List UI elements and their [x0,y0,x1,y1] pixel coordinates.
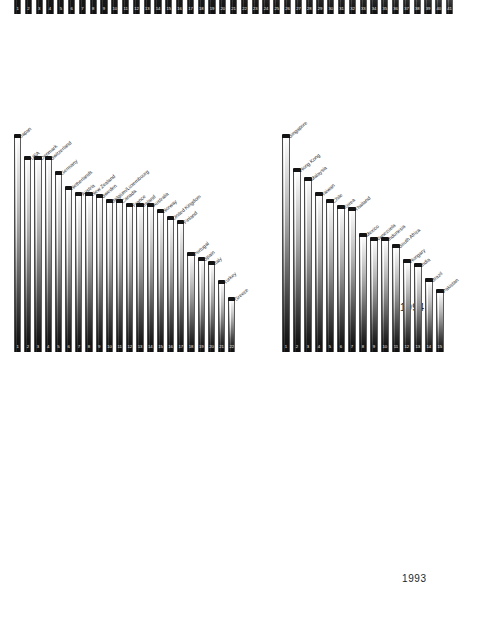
bar-rank-number: 23 [253,6,258,11]
bar: 36 [392,0,399,14]
bar-rank-number: 9 [101,6,106,11]
bar-rank-number: 16 [177,6,182,11]
bar-rank-number: 38 [415,6,420,11]
bar: 39 [424,0,431,14]
bar: 17 [187,0,194,14]
bar-rank-number: 1 [15,344,20,349]
bar-rank-number: 1 [15,6,20,11]
bar: 2 [24,159,31,353]
bar-rank-number: 4 [46,344,51,349]
bar-rank-number: 33 [361,6,366,11]
bar-rank-number: 8 [86,344,91,349]
bar-rank-number: 15 [437,344,443,349]
bar: 18 [187,255,194,352]
bar: 13 [414,266,422,352]
bar: 5 [55,174,62,352]
bar-rank-number: 10 [107,344,112,349]
bar-rank-number: 16 [168,344,173,349]
bar: 32 [349,0,356,14]
bar-rank-number: 29 [317,6,322,11]
bar: 41 [446,0,453,14]
bar: 22 [228,300,235,352]
bar-rank-number: 6 [338,344,344,349]
bar-rank-number: 27 [296,6,301,11]
bar-rank-number: 31 [339,6,344,11]
bar-rank-number: 21 [231,6,236,11]
category-label: Brazil [430,270,443,283]
bar-rank-number: 7 [76,344,81,349]
bar: 16 [176,0,183,14]
bar: 3 [36,0,43,14]
bar: 7 [79,0,86,14]
bar-rank-number: 15 [166,6,171,11]
bar: 26 [284,0,291,14]
bar-rank-number: 9 [371,344,377,349]
bar-rank-number: 11 [393,344,399,349]
bar-rank-number: 13 [137,344,142,349]
bar: 7 [75,195,82,352]
bar-rank-number: 4 [47,6,52,11]
bar-rank-number: 14 [155,6,160,11]
bar-rank-number: 1 [283,344,289,349]
bar-rank-number: 30 [328,6,333,11]
bar: 19 [208,0,215,14]
bar: 9 [100,0,107,14]
bar: 38 [414,0,421,14]
bar-rank-number: 5 [56,344,61,349]
bar: 2 [25,0,32,14]
bar-rank-number: 34 [371,6,376,11]
bar: 23 [252,0,259,14]
plot-area-1994: 1USA2Singapore3Japan4Hong Kong5Germany6S… [14,0,453,14]
bar: 10 [106,202,113,353]
bar: 31 [338,0,345,14]
bar: 25 [273,0,280,14]
bar-rank-number: 18 [188,344,193,349]
bar: 19 [198,260,205,352]
bar-rank-number: 40 [436,6,441,11]
bar: 15 [165,0,172,14]
bar: 3 [34,159,41,353]
bar-rank-number: 25 [274,6,279,11]
bar: 35 [381,0,388,14]
bar: 12 [403,262,411,352]
bar-rank-number: 3 [35,344,40,349]
plot-area-1993-emerging: 1Singapore2Hong Kong3Malaysia4Taiwan5Chi… [282,137,444,352]
bar-rank-number: 32 [350,6,355,11]
category-label: Germany [59,157,78,175]
bar-rank-number: 3 [305,344,311,349]
bar: 27 [295,0,302,14]
bar: 8 [90,0,97,14]
bar-rank-number: 18 [199,6,204,11]
bar: 14 [425,281,433,352]
plot-area-1993-oecd: 1Japan2USA3Denmark4Switzerland5Germany6N… [14,137,235,352]
bar-rank-number: 17 [178,344,183,349]
bar-rank-number: 28 [307,6,312,11]
bar: 16 [167,219,174,352]
bar: 8 [85,195,92,352]
bar: 40 [435,0,442,14]
bar: 1 [14,137,21,352]
bar-rank-number: 2 [26,6,31,11]
figure-canvas: 1USA2Singapore3Japan4Hong Kong5Germany6S… [0,0,477,622]
bar: 8 [359,236,367,352]
bar: 18 [198,0,205,14]
bar: 4 [46,0,53,14]
bar: 12 [126,206,133,352]
bar-rank-number: 39 [425,6,430,11]
bar: 11 [116,202,123,353]
bar-rank-number: 35 [382,6,387,11]
bar-rank-number: 12 [134,6,139,11]
bar: 28 [306,0,313,14]
bar: 11 [392,247,400,352]
bar-rank-number: 2 [25,344,30,349]
bar: 9 [96,197,103,352]
bar: 20 [219,0,226,14]
bar: 17 [177,223,184,352]
category-label: Turkey [222,271,237,285]
bar-rank-number: 19 [199,344,204,349]
bar-rank-number: 12 [127,344,132,349]
bar: 34 [370,0,377,14]
category-label: India [419,256,431,268]
bar: 12 [133,0,140,14]
bar-rank-number: 7 [80,6,85,11]
